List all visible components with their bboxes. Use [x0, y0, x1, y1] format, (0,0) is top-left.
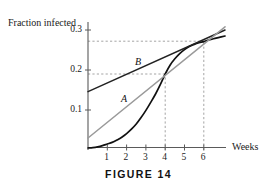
x-tick-label-6: 6 [201, 153, 206, 163]
infection-curve [88, 36, 225, 148]
curve-label-b: B [135, 57, 141, 67]
y-tick-label-0.1: 0.1 [58, 105, 82, 115]
x-tick-label-4: 4 [162, 153, 167, 163]
curve-label-a: A [121, 94, 127, 104]
figure-caption: FIGURE 14 [0, 168, 277, 180]
data-series [88, 27, 225, 148]
x-tick-label-1: 1 [104, 153, 109, 163]
figure-container: Fraction infected Weeks A B FIGURE 14 12… [0, 0, 277, 191]
y-tick-label-0.3: 0.3 [58, 25, 82, 35]
x-axis-title: Weeks [232, 142, 258, 152]
y-tick-label-0.2: 0.2 [58, 65, 82, 75]
x-tick-label-2: 2 [124, 153, 129, 163]
x-tick-label-3: 3 [143, 153, 148, 163]
x-tick-label-5: 5 [182, 153, 187, 163]
plot-area [0, 0, 277, 191]
